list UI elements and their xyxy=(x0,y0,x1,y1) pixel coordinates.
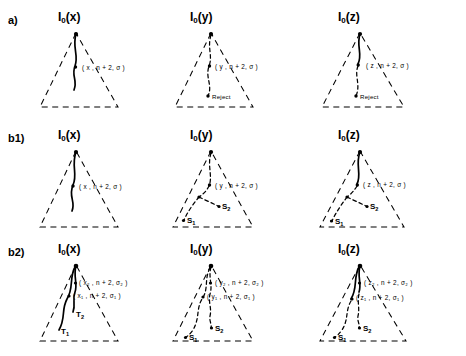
endpoint-dot-s1 xyxy=(330,219,333,222)
endpoint-label-s2: S2 xyxy=(215,324,223,334)
endpoint-label-s1: S1 xyxy=(187,216,195,226)
event-dot xyxy=(208,183,211,186)
origin-dot xyxy=(209,264,214,269)
panel-a-x: I0(x) ( x , n + 2, σ ) xyxy=(18,0,158,118)
endpoint-label-s1: S1 xyxy=(338,333,346,343)
endpoint-dot-s2 xyxy=(217,205,220,208)
panel-b2-x: I0(x) ( x₂ , n + 2, σ₂ ) ( x₁ , n + 2, σ… xyxy=(18,238,158,356)
param-label-lower: ( z₁ , n + 2, σ₁ ) xyxy=(356,294,404,302)
trajectory-solid xyxy=(357,152,360,184)
panel-b1-x: I0(x) ( x , n + 2, σ ) xyxy=(18,118,158,238)
endpoint-dot xyxy=(206,94,209,97)
trajectory-dashed-1 xyxy=(186,268,210,337)
figure-row-a: a) I0(x) ( x , n + 2, σ ) I0(y) xyxy=(0,0,466,118)
panel-title-b1-z: I0(z) xyxy=(338,128,360,143)
panel-a-z-graphic: ( z , n + 2, σ ) Reject xyxy=(300,0,460,118)
panel-a-x-graphic: ( x , n + 2, σ ) xyxy=(18,0,158,118)
panel-title-b2-z: I0(z) xyxy=(338,242,360,257)
panel-a-z: I0(z) ( z , n + 2, σ ) Reject xyxy=(300,0,460,118)
origin-dot xyxy=(358,32,362,36)
panel-b1-y-graphic: ( y , n + 2, σ ) S2 S1 xyxy=(155,118,305,238)
origin-dot xyxy=(74,264,79,269)
endpoint-dot-s1 xyxy=(333,336,336,339)
origin-dot xyxy=(358,150,362,154)
param-label-upper: ( x₂ , n + 2, σ₂ ) xyxy=(79,279,128,287)
branch-dashed-s2 xyxy=(347,197,366,206)
branch-dashed-s2 xyxy=(199,197,218,206)
endpoint-label-t1: T1 xyxy=(61,327,69,337)
panel-title-b2-y: I0(y) xyxy=(190,242,212,257)
trajectory-solid xyxy=(358,34,360,64)
origin-dot xyxy=(74,150,78,154)
trajectory-dashed xyxy=(356,66,358,96)
panel-b1-y: I0(y) ( y , n + 2, σ ) S2 S1 xyxy=(155,118,305,238)
param-label-lower: ( x₁ , n + 2, σ₁ ) xyxy=(73,292,121,300)
endpoint-dot-s1 xyxy=(182,219,185,222)
panel-title-arg: (x) xyxy=(66,128,81,142)
param-label: ( z , n + 2, σ ) xyxy=(366,62,409,70)
panel-title-arg: (y) xyxy=(198,242,213,256)
param-label-lower: ( y₁ , n + 2, σ₁ ) xyxy=(207,293,255,301)
endpoint-dot xyxy=(354,94,357,97)
param-label: ( x , n + 2, σ ) xyxy=(79,183,122,191)
lightcone-triangle xyxy=(173,151,253,227)
param-label: ( y , n + 2, σ ) xyxy=(215,182,258,190)
trajectory-solid-2 xyxy=(359,266,360,292)
panel-title-a-y: I0(y) xyxy=(190,10,212,25)
endpoint-label-s2: S2 xyxy=(363,324,371,334)
panel-b1-x-graphic: ( x , n + 2, σ ) xyxy=(18,118,158,238)
trajectory-dashed-main xyxy=(347,186,357,197)
panel-b2-y: I0(y) ( y₂ , n + 2, σ₂ ) ( y₁ , n + 2, σ… xyxy=(155,238,310,356)
figure-row-b1: b1) I0(x) ( x , n + 2, σ ) I0(y) xyxy=(0,118,466,238)
panel-title-arg: (y) xyxy=(198,10,213,24)
panel-title-a-z: I0(z) xyxy=(338,10,360,25)
lightcone-triangle xyxy=(320,151,404,227)
event-dot xyxy=(74,65,77,68)
event-dot xyxy=(356,183,359,186)
event-dot-2 xyxy=(358,281,361,284)
origin-dot xyxy=(209,32,213,36)
figure-canvas: a) I0(x) ( x , n + 2, σ ) I0(y) xyxy=(0,0,466,356)
panel-title-a-x: I0(x) xyxy=(58,10,80,25)
panel-b1-z-graphic: ( z , n + 2, σ ) S2 S1 xyxy=(300,118,460,238)
param-label: ( y , n + 2, σ ) xyxy=(215,63,258,71)
event-dot-2 xyxy=(209,281,212,284)
lightcone-triangle xyxy=(173,265,253,341)
endpoint-label-s2: S2 xyxy=(370,202,378,212)
panel-a-y-graphic: ( y , n + 2, σ ) Reject xyxy=(155,0,305,118)
trajectory-solid xyxy=(74,34,77,90)
event-dot-1 xyxy=(67,294,70,297)
event-dot xyxy=(208,64,211,67)
endpoint-label-t2: T2 xyxy=(76,310,84,320)
trajectory-dashed-main xyxy=(199,153,211,197)
endpoint-dot-s1 xyxy=(184,336,187,339)
panel-title-arg: (x) xyxy=(66,10,81,24)
endpoint-dot-s2 xyxy=(210,326,213,329)
branch-dot xyxy=(345,195,348,198)
panel-title-arg: (z) xyxy=(346,10,360,24)
panel-title-arg: (z) xyxy=(346,242,360,256)
panel-title-b2-x: I0(x) xyxy=(58,242,80,257)
panel-title-arg: (x) xyxy=(66,242,81,256)
origin-dot xyxy=(358,264,363,269)
trajectory-dashed-1 xyxy=(335,301,351,337)
branch-dot xyxy=(197,195,200,198)
row-label-a: a) xyxy=(8,14,18,26)
panel-title-b1-y: I0(y) xyxy=(190,128,212,143)
panel-b2-z-graphic: ( z₂ , n + 2, σ₂ ) ( z₁ , n + 2, σ₁ ) S2… xyxy=(300,238,465,356)
reject-label: Reject xyxy=(212,93,231,100)
endpoint-label-s2: S2 xyxy=(222,202,230,212)
panel-title-b1-x: I0(x) xyxy=(58,128,80,143)
panel-a-y: I0(y) ( y , n + 2, σ ) Reject xyxy=(155,0,305,118)
endpoint-label-s1: S1 xyxy=(189,333,197,343)
event-dot-1 xyxy=(350,297,353,300)
panel-b2-x-graphic: ( x₂ , n + 2, σ₂ ) ( x₁ , n + 2, σ₁ ) T2… xyxy=(18,238,158,356)
param-label: ( z , n + 2, σ ) xyxy=(363,181,406,189)
endpoint-dot-s2 xyxy=(358,326,361,329)
param-label-upper: ( y₂ , n + 2, σ₂ ) xyxy=(215,279,264,287)
event-dot xyxy=(357,63,360,66)
panel-b2-y-graphic: ( y₂ , n + 2, σ₂ ) ( y₁ , n + 2, σ₁ ) S2… xyxy=(155,238,310,356)
trajectory-solid xyxy=(71,152,76,211)
figure-row-b2: b2) I0(x) ( x₂ , n + 2, σ₂ ) ( x₁ , n + … xyxy=(0,238,466,356)
panel-title-arg: (y) xyxy=(198,128,213,142)
